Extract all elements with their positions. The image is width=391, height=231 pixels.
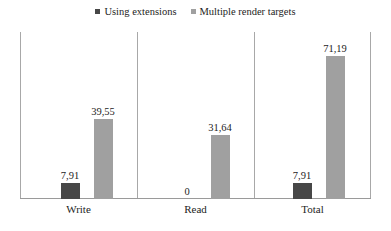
legend-swatch-icon-series-2	[191, 9, 196, 14]
bar-label-write-using-extensions: 7,91	[47, 171, 93, 182]
bar-label-write-multiple-render-targets: 39,55	[80, 107, 126, 118]
category-label-read: Read	[137, 204, 254, 215]
bar-label-total-using-extensions: 7,91	[279, 171, 325, 182]
bar-label-read-multiple-render-targets: 31,64	[197, 123, 243, 134]
legend-swatch-icon-series-1	[95, 9, 100, 14]
chart-legend: Using extensions Multiple render targets	[0, 7, 391, 18]
legend-label-series-2: Multiple render targets	[200, 7, 296, 18]
bar-write-multiple-render-targets[interactable]	[94, 119, 113, 199]
bar-group-write: 7,91 39,55	[20, 32, 137, 199]
category-label-write: Write	[20, 204, 137, 215]
x-axis-category-labels: Write Read Total	[20, 204, 371, 224]
category-label-total: Total	[254, 204, 371, 215]
legend-item-using-extensions: Using extensions	[95, 7, 176, 18]
plot-area: 7,91 39,55 0 31,64 7,91 71,19	[20, 32, 371, 199]
bar-label-read-using-extensions: 0	[164, 187, 210, 198]
bar-label-total-multiple-render-targets: 71,19	[312, 44, 358, 55]
legend-item-multiple-render-targets: Multiple render targets	[191, 7, 296, 18]
legend-label-series-1: Using extensions	[104, 7, 176, 18]
bar-group-read: 0 31,64	[137, 32, 254, 199]
bar-total-using-extensions[interactable]	[293, 183, 312, 199]
bar-write-using-extensions[interactable]	[61, 183, 80, 199]
bar-read-multiple-render-targets[interactable]	[211, 135, 230, 199]
bar-total-multiple-render-targets[interactable]	[326, 56, 345, 199]
bar-group-total: 7,91 71,19	[254, 32, 371, 199]
bar-chart: Using extensions Multiple render targets…	[0, 0, 391, 231]
